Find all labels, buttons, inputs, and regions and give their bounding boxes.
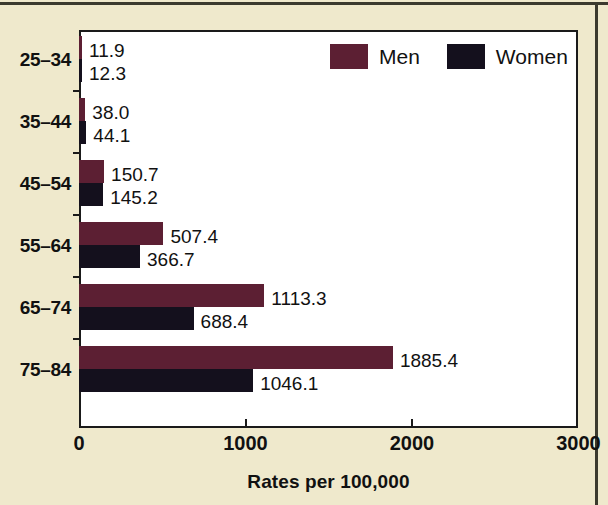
bar-value-women-45-54: 145.2 (110, 188, 158, 207)
legend-swatch-women-icon (447, 44, 485, 69)
bar-value-men-65-74: 1113.3 (271, 289, 326, 308)
bar-women-25-34 (79, 59, 82, 82)
y-axis-label-65-74: 65–74 (0, 297, 71, 319)
bar-women-75-84 (79, 369, 253, 392)
x-axis-tick-2000 (411, 419, 413, 428)
bar-men-45-54 (79, 160, 104, 183)
bar-men-75-84 (79, 346, 393, 369)
y-axis-label-75-84: 75–84 (0, 359, 71, 381)
bar-value-women-55-64: 366.7 (147, 250, 195, 269)
bar-women-35-44 (79, 121, 86, 144)
bar-value-men-75-84: 1885.4 (400, 351, 458, 370)
bar-value-women-65-74: 688.4 (201, 312, 249, 331)
bar-value-men-35-44: 38.0 (92, 103, 129, 122)
y-axis-label-25-34: 25–34 (0, 49, 71, 71)
chart-legend: Men Women (330, 44, 568, 69)
bar-value-women-35-44: 44.1 (93, 126, 130, 145)
y-axis-label-55-64: 55–64 (0, 235, 71, 257)
legend-label-women: Women (496, 45, 568, 69)
legend-item-men: Men (330, 44, 420, 69)
bar-women-45-54 (79, 183, 103, 206)
bar-women-65-74 (79, 307, 194, 330)
x-axis-tick-1000 (245, 419, 247, 428)
x-axis-tick-label-2000: 2000 (390, 432, 435, 455)
bar-men-35-44 (79, 98, 85, 121)
x-axis-tick-label-3000: 3000 (556, 432, 601, 455)
y-axis-category-labels: 25–3435–4445–5455–6465–7475–84 (0, 0, 79, 505)
bar-value-men-55-64: 507.4 (170, 227, 218, 246)
plot-area: 11.912.338.044.1150.7145.2507.4366.71113… (79, 30, 578, 428)
bar-men-55-64 (79, 222, 163, 245)
bar-value-women-75-84: 1046.1 (260, 374, 318, 393)
bar-men-25-34 (79, 36, 82, 59)
x-axis-tick-label-0: 0 (73, 432, 84, 455)
legend-swatch-men-icon (330, 44, 368, 69)
bar-women-55-64 (79, 245, 140, 268)
legend-label-men: Men (379, 45, 420, 69)
bar-men-65-74 (79, 284, 264, 307)
bar-value-women-25-34: 12.3 (89, 64, 126, 83)
x-axis-tick-label-1000: 1000 (223, 432, 268, 455)
x-axis-title: Rates per 100,000 (79, 471, 578, 493)
legend-item-women: Women (447, 44, 568, 69)
bar-value-men-25-34: 11.9 (89, 41, 125, 60)
bar-chart-figure: 25–3435–4445–5455–6465–7475–84 11.912.33… (0, 0, 608, 505)
y-axis-label-35-44: 35–44 (0, 111, 71, 133)
bar-value-men-45-54: 150.7 (111, 165, 159, 184)
y-axis-label-45-54: 45–54 (0, 173, 71, 195)
